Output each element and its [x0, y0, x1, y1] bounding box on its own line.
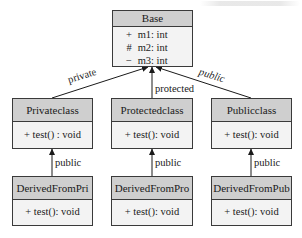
class-derivedfrompub-method: + test(): void [212, 200, 291, 224]
member-m2: # m2: int [123, 41, 192, 54]
class-protectedclass-method: + test(): void [112, 122, 192, 148]
class-privateclass-name: Privateclass [13, 99, 92, 122]
label-pri-derived-public: public [55, 157, 81, 169]
class-publicclass-name: Publicclass [212, 99, 291, 122]
class-derivedfrompub: DerivedFromPub + test(): void [211, 176, 292, 226]
label-pub-derived-public: public [254, 157, 280, 169]
class-privateclass: Privateclass + test() : void [12, 98, 93, 149]
member-m1: + m1: int [123, 28, 192, 41]
member-m3: − m3: int [123, 54, 192, 67]
visibility-protected-icon: # [123, 41, 135, 54]
class-privateclass-method: + test() : void [13, 122, 92, 148]
private-inheritance-line [52, 67, 148, 98]
class-publicclass-method: + test(): void [212, 122, 291, 148]
class-derivedfrompro-name: DerivedFromPro [112, 177, 192, 200]
uml-diagram: Base + m1: int # m2: int − m3: int priva… [0, 0, 302, 238]
class-base-name: Base [113, 11, 192, 27]
class-protectedclass-name: Protectedclass [112, 99, 192, 122]
visibility-private-icon: − [123, 54, 135, 67]
class-base: Base + m1: int # m2: int − m3: int [112, 10, 193, 67]
class-base-members: + m1: int # m2: int − m3: int [113, 27, 192, 67]
label-protected: protected [155, 83, 194, 95]
class-derivedfrompub-name: DerivedFromPub [212, 177, 291, 200]
class-derivedfrompri: DerivedFromPri + test(): void [12, 176, 93, 226]
class-derivedfrompri-method: + test(): void [13, 200, 92, 224]
class-derivedfrompro-method: + test(): void [112, 200, 192, 224]
class-protectedclass: Protectedclass + test(): void [111, 98, 193, 149]
class-derivedfrompro: DerivedFromPro + test(): void [111, 176, 193, 226]
class-publicclass: Publicclass + test(): void [211, 98, 292, 149]
visibility-public-icon: + [123, 28, 135, 41]
class-derivedfrompri-name: DerivedFromPri [13, 177, 92, 200]
label-pro-derived-public: public [155, 157, 181, 169]
